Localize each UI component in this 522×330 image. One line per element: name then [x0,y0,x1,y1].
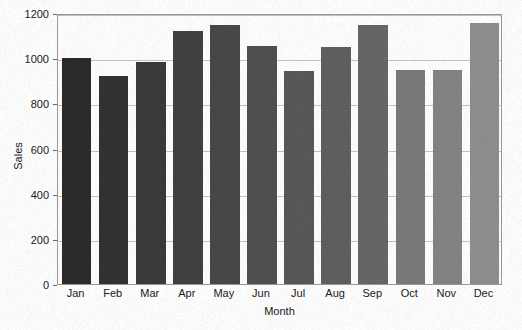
x-tick-label-aug: Aug [317,287,354,299]
y-tick-mark-0 [53,285,57,286]
bar-jul [284,71,314,284]
bar-mar [136,62,166,284]
x-axis-title: Month [57,305,502,317]
plot-area [57,14,502,285]
bar-sep [358,25,388,284]
x-tick-label-dec: Dec [465,287,502,299]
x-tick-label-nov: Nov [428,287,465,299]
bar-series [58,15,501,284]
x-axis-ticks: JanFebMarAprMayJunJulAugSepOctNovDec [57,287,502,305]
x-tick-label-feb: Feb [94,287,131,299]
bar-dec [470,23,500,284]
y-tick-label-1200: 1200 [3,8,49,20]
bar-feb [99,76,129,284]
x-tick-label-jun: Jun [242,287,279,299]
y-axis-ticks: 020040060080010001200 [0,0,57,330]
x-tick-label-sep: Sep [354,287,391,299]
bar-apr [173,31,203,284]
y-tick-label-800: 800 [3,98,49,110]
x-tick-label-oct: Oct [391,287,428,299]
bar-jun [247,46,277,284]
x-tick-label-jul: Jul [280,287,317,299]
x-tick-label-mar: Mar [131,287,168,299]
y-tick-label-600: 600 [3,144,49,156]
bar-chart-figure: 020040060080010001200 Sales JanFebMarApr… [0,0,522,330]
bar-oct [396,70,426,285]
x-tick-label-may: May [205,287,242,299]
y-tick-label-1000: 1000 [3,53,49,65]
x-tick-label-jan: Jan [57,287,94,299]
bar-aug [321,47,351,284]
x-tick-label-apr: Apr [168,287,205,299]
y-tick-label-200: 200 [3,234,49,246]
y-axis-title: Sales [12,126,24,186]
bar-nov [433,70,463,285]
bar-may [210,25,240,284]
y-tick-label-0: 0 [3,279,49,291]
bar-jan [62,58,92,284]
y-tick-label-400: 400 [3,189,49,201]
